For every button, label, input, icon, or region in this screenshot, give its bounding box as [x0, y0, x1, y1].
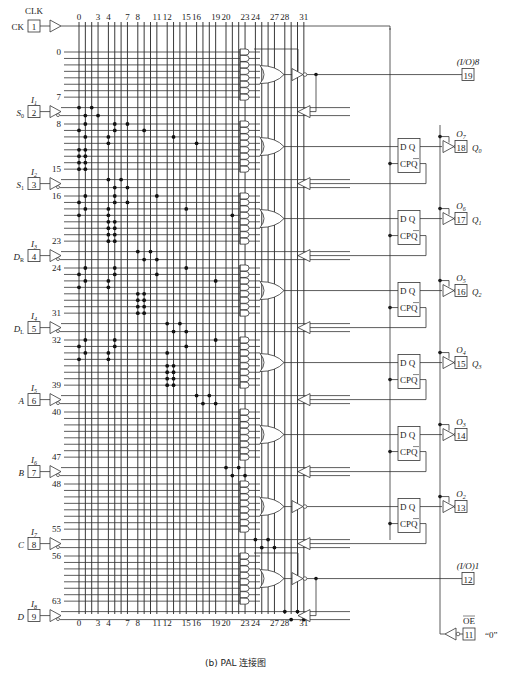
fuse-dot	[113, 345, 117, 349]
oe-label: OE	[463, 616, 475, 626]
input-S1: 3I2S1	[17, 167, 351, 191]
fuse-dot	[165, 377, 169, 381]
and-gate-icon	[240, 94, 249, 100]
q-label: Q3	[472, 359, 482, 370]
fuse-dot	[119, 178, 123, 182]
column-label-top: 19	[211, 12, 221, 22]
and-gate-icon	[240, 409, 249, 415]
signal-name: D	[17, 612, 25, 622]
column-label-top: 31	[299, 12, 308, 22]
fuse-dot	[172, 364, 176, 368]
fuse-dot	[260, 546, 264, 550]
and-gate-icon	[240, 513, 249, 519]
fuse-dot	[155, 273, 159, 277]
output-15: D QCPQ15O4Q3	[284, 345, 482, 406]
row-label: 16	[52, 191, 62, 201]
column-label-top: 4	[106, 12, 111, 22]
fuse-dot	[107, 351, 111, 355]
fuse-dot	[165, 322, 169, 326]
row-label: 24	[52, 263, 62, 273]
fuse-dot	[113, 266, 117, 270]
or-gate-icon	[260, 282, 284, 300]
and-gate-icon	[240, 592, 249, 598]
output-buffer-icon	[443, 213, 454, 225]
pin-number: 6	[32, 396, 37, 406]
output-label: O7	[456, 129, 467, 140]
fuse-dot	[243, 474, 247, 478]
output-14: D QCPQ14O3	[284, 417, 467, 478]
fuse-dot	[113, 239, 117, 243]
fuse-dot	[83, 135, 87, 139]
output-18: D QCPQ18O7Q0	[284, 129, 482, 190]
fuse-dot	[126, 201, 130, 205]
fuse-dot	[107, 141, 111, 145]
and-gate-icon	[240, 579, 249, 585]
pin-number: 19	[464, 71, 474, 81]
and-gate-icon	[240, 147, 249, 153]
column-label-top: 12	[163, 12, 172, 22]
fuse-dot	[296, 610, 300, 614]
signal-name: DR	[12, 252, 24, 263]
and-gate-icon	[240, 88, 249, 94]
and-gate-icon	[240, 337, 249, 343]
q-label: Q1	[472, 215, 482, 226]
and-gate-icon	[240, 428, 249, 434]
fuse-dot	[142, 258, 146, 262]
fuse-dot	[77, 106, 81, 110]
pin-number: 14	[457, 431, 467, 441]
fuse-dot	[107, 220, 111, 224]
fuse-dot	[96, 114, 100, 118]
and-gate-icon	[240, 225, 249, 231]
fuse-dot	[83, 122, 87, 126]
fuse-dot	[155, 194, 159, 198]
output-label: O3	[456, 417, 466, 428]
pin-number: 7	[32, 468, 37, 478]
and-gate-icon	[240, 232, 249, 238]
fuse-dot	[77, 167, 81, 171]
flipflop-clock-pins: CPQ	[400, 303, 418, 313]
flipflop-clock-pins: CPQ	[400, 231, 418, 241]
row-label: 63	[52, 596, 62, 606]
oe-buffer-icon	[445, 628, 456, 640]
fuse-dot	[155, 258, 159, 262]
pin-number: 17	[457, 215, 467, 225]
fuse-dot	[195, 394, 199, 398]
fuse-dot	[136, 305, 140, 309]
clock-buffer-icon	[50, 20, 61, 32]
fuse-dot	[77, 148, 81, 152]
and-gate-icon	[240, 68, 249, 74]
fuse-dot	[113, 226, 117, 230]
and-gate-icon	[240, 487, 249, 493]
pin-number: 5	[32, 324, 37, 334]
clock-line	[61, 26, 390, 30]
and-gate-icon	[240, 481, 249, 487]
pin-number: 3	[32, 180, 37, 190]
and-gate-icon	[240, 49, 249, 55]
and-gate-icon	[240, 199, 249, 205]
output-label: O4	[456, 345, 466, 356]
fuse-dot	[107, 233, 111, 237]
column-label-top: 24	[251, 12, 261, 22]
fuse-dot	[266, 538, 270, 542]
fuse-dot	[172, 330, 176, 334]
fuse-dot	[113, 233, 117, 237]
input-A: 6I5A	[18, 383, 351, 406]
fuse-dot	[113, 201, 117, 205]
input-id-label: I3	[30, 239, 37, 250]
or-gate-icon	[260, 498, 284, 516]
fuse-dot	[214, 279, 218, 283]
pin-number: 12	[464, 575, 473, 585]
fuse-dot	[107, 213, 111, 217]
and-gate-icon	[240, 559, 249, 565]
fuse-dot	[165, 351, 169, 355]
fuse-dot	[165, 370, 169, 374]
fuse-dot	[83, 351, 87, 355]
input-id-label: I2	[30, 167, 37, 178]
fuse-dot	[107, 279, 111, 283]
fuse-dot	[83, 338, 87, 342]
and-gate-icon	[240, 422, 249, 428]
input-id-label: I5	[30, 383, 37, 394]
and-gate-icon	[240, 291, 249, 297]
signal-name: B	[19, 468, 25, 478]
and-gate-icon	[240, 526, 249, 532]
